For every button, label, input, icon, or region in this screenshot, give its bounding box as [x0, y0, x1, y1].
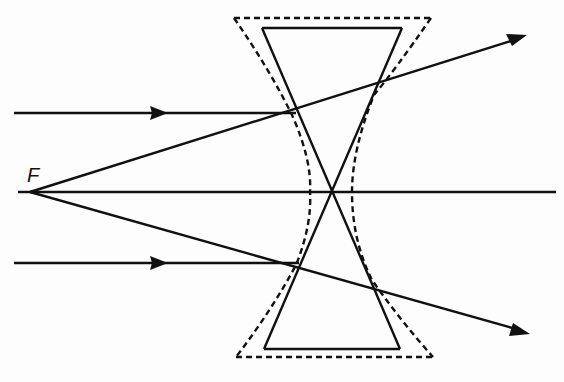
focal-point-label: F: [27, 164, 39, 187]
arrow-head-icon: [150, 256, 168, 270]
upper-refracted-ray: [30, 40, 514, 192]
diagram-canvas: [0, 0, 564, 382]
arrow-head-icon: [506, 34, 527, 46]
arrow-head-icon: [509, 323, 530, 336]
lens-diagram: F: [0, 0, 564, 382]
arrow-head-icon: [150, 106, 168, 120]
lens-solid-outline: [262, 28, 402, 349]
lower-refracted-ray: [30, 192, 516, 329]
